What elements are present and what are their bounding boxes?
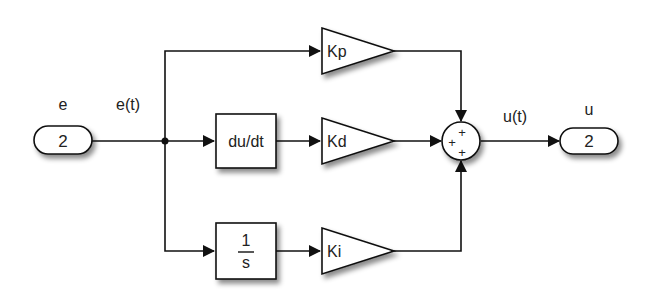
derivative-label: du/dt <box>228 133 264 150</box>
output-signal-label: u(t) <box>503 108 527 125</box>
gain-ki-label: Ki <box>327 243 341 260</box>
gain-ki-block[interactable]: Ki <box>322 228 394 274</box>
derivative-block[interactable]: du/dt <box>216 114 276 168</box>
branch-point <box>162 138 169 145</box>
integrator-denominator: s <box>242 254 250 271</box>
gain-kd-label: Kd <box>327 133 347 150</box>
integrator-numerator: 1 <box>242 232 251 249</box>
sum-block[interactable]: + + + <box>442 122 480 160</box>
integrator-block[interactable]: 1 s <box>216 223 276 279</box>
gain-kp-label: Kp <box>327 43 347 60</box>
sum-sign-left: + <box>448 135 456 150</box>
input-port-number: 2 <box>58 132 67 151</box>
output-port-block[interactable]: 2 <box>560 128 618 154</box>
output-port-number: 2 <box>584 132 593 151</box>
output-port-label: u <box>585 101 594 118</box>
input-signal-label: e(t) <box>116 96 140 113</box>
sum-sign-top: + <box>458 125 466 140</box>
gain-kp-block[interactable]: Kp <box>322 28 394 74</box>
input-port-label: e <box>59 96 68 113</box>
sum-sign-bottom: + <box>458 145 466 160</box>
input-port-block[interactable]: 2 <box>34 126 92 154</box>
pid-diagram-canvas: 2 e e(t) Kp du/dt Kd 1 s Ki <box>0 0 648 304</box>
gain-kd-block[interactable]: Kd <box>322 118 394 164</box>
